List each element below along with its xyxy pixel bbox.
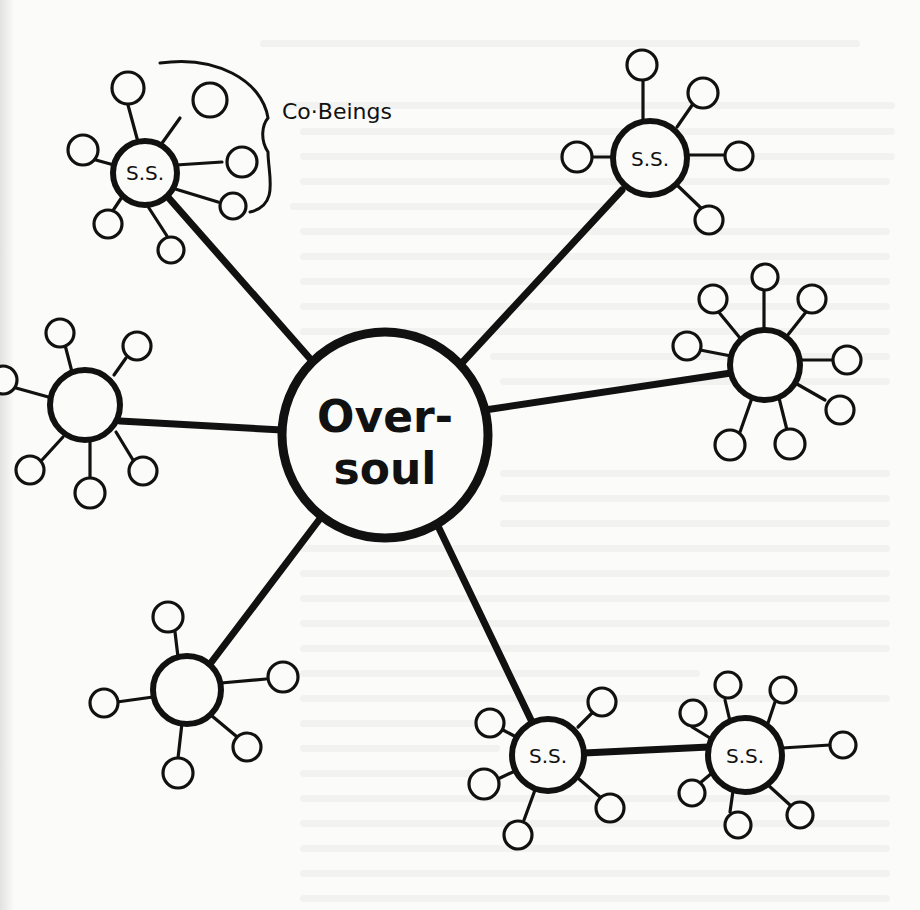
- satellite: [588, 688, 616, 716]
- satellite: [680, 700, 706, 726]
- satellite: [596, 794, 624, 822]
- co-beings-annotation: Co·Beings: [160, 62, 392, 212]
- co-being-satellite: [68, 135, 98, 165]
- cluster-hub-bottom-left: [90, 602, 298, 788]
- link-oversoul-to-ss-top-right: [460, 190, 622, 365]
- satellite: [627, 50, 657, 80]
- cluster-ss-bottom-mid: S.S.: [469, 688, 624, 849]
- hub-right-node: [730, 330, 800, 400]
- link-oversoul-to-hub-left: [120, 421, 282, 430]
- scanned-page: S.S. Co·Beings S.S.: [0, 0, 920, 910]
- cluster-hub-left: [0, 319, 157, 508]
- satellite: [830, 732, 856, 758]
- co-beings-label: Co·Beings: [282, 99, 392, 124]
- satellite: [833, 346, 861, 374]
- satellite: [699, 285, 727, 313]
- hub-left-node: [50, 370, 120, 440]
- ss-bottom-mid-label: S.S.: [529, 744, 567, 768]
- satellite: [775, 429, 805, 459]
- co-being-satellite: [158, 237, 184, 263]
- satellite: [0, 366, 17, 394]
- satellite: [673, 332, 701, 360]
- satellite: [233, 733, 261, 761]
- satellite: [725, 142, 753, 170]
- satellite: [715, 672, 741, 698]
- co-being-satellite: [193, 83, 227, 117]
- satellite: [153, 602, 183, 632]
- hub-bottom-left-node: [153, 656, 221, 724]
- co-being-satellite: [220, 193, 246, 219]
- ss-top-left-label: S.S.: [126, 161, 164, 185]
- satellite: [46, 319, 74, 347]
- satellite: [715, 430, 745, 460]
- satellite: [798, 285, 826, 313]
- oversoul-label-line2: soul: [334, 443, 437, 494]
- link-ss-bottom-mid-to-ss-bottom-right: [584, 747, 709, 753]
- satellite: [787, 802, 813, 828]
- satellite: [562, 142, 592, 172]
- satellite: [16, 456, 44, 484]
- satellite: [268, 662, 298, 692]
- satellite: [725, 812, 751, 838]
- satellite: [679, 780, 705, 806]
- cluster-ss-top-left: S.S.: [68, 72, 257, 263]
- satellite: [75, 478, 105, 508]
- oversoul-label-line1: Over-: [317, 391, 453, 442]
- co-being-satellite: [94, 210, 122, 238]
- satellite: [695, 206, 723, 234]
- cluster-hub-right: [673, 264, 861, 460]
- satellite: [770, 677, 796, 703]
- link-oversoul-to-hub-right: [485, 373, 731, 410]
- oversoul-center: Over- soul: [282, 332, 488, 538]
- cluster-ss-top-right: S.S.: [562, 50, 753, 234]
- ss-bottom-right-label: S.S.: [726, 744, 764, 768]
- co-being-satellite: [112, 72, 144, 104]
- satellite: [163, 758, 193, 788]
- oversoul-network-diagram: S.S. Co·Beings S.S.: [0, 0, 920, 910]
- satellite: [826, 396, 854, 424]
- satellite: [123, 332, 151, 360]
- satellite: [504, 821, 532, 849]
- satellite: [752, 264, 778, 290]
- satellite: [688, 78, 718, 108]
- co-being-satellite: [227, 147, 257, 177]
- satellite: [90, 689, 118, 717]
- satellite: [469, 769, 499, 799]
- link-oversoul-to-ss-top-left: [167, 196, 313, 362]
- satellite: [129, 457, 157, 485]
- cluster-ss-bottom-right: S.S.: [679, 672, 856, 838]
- link-oversoul-to-hub-bottom-left: [210, 516, 322, 664]
- ss-top-right-label: S.S.: [631, 147, 669, 171]
- satellite: [476, 709, 504, 737]
- link-oversoul-to-ss-bottom-mid: [437, 524, 532, 722]
